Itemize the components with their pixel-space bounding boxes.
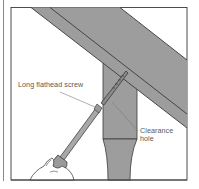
label-clearance-hole: Clearance hole	[140, 127, 173, 143]
illustration-drawing	[0, 0, 199, 189]
label-clearance-hole-line2: hole	[140, 135, 173, 143]
illustration: Long flathead screw Clearance hole	[0, 0, 199, 189]
label-long-flathead-screw: Long flathead screw	[18, 81, 83, 89]
